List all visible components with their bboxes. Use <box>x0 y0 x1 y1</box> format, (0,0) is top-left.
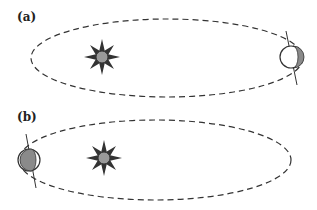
earth-icon <box>280 31 304 85</box>
orbit-diagram <box>0 0 317 210</box>
panel-b <box>18 120 291 200</box>
panel-a <box>31 19 304 97</box>
sun-icon <box>84 39 120 75</box>
orbit-path-a <box>31 19 303 97</box>
orbit-path-b <box>19 120 291 200</box>
sun-icon <box>86 140 122 176</box>
earth-icon <box>18 134 40 188</box>
